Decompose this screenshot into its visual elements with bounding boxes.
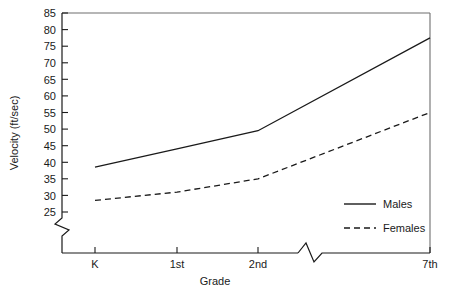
- x-tick-label-k: K: [91, 258, 99, 270]
- y-tick-label-70: 70: [44, 57, 56, 69]
- legend-label-females: Females: [383, 222, 426, 234]
- y-tick-label-65: 65: [44, 74, 56, 86]
- x-tick-label-1st: 1st: [170, 258, 185, 270]
- x-tick-label-2nd: 2nd: [249, 258, 267, 270]
- chart-svg: 85 80 75 70 65 60 55 50 45 40 35 30 25 V…: [0, 0, 452, 291]
- y-tick-label-30: 30: [44, 190, 56, 202]
- legend-label-males: Males: [383, 198, 413, 210]
- y-tick-label-60: 60: [44, 90, 56, 102]
- y-axis-title: Velocity (ft/sec): [8, 96, 20, 171]
- y-tick-label-80: 80: [44, 24, 56, 36]
- velocity-by-grade-line-chart: 85 80 75 70 65 60 55 50 45 40 35 30 25 V…: [0, 0, 452, 291]
- y-tick-label-45: 45: [44, 140, 56, 152]
- x-tick-label-7th: 7th: [422, 258, 437, 270]
- y-tick-label-85: 85: [44, 7, 56, 19]
- y-tick-label-55: 55: [44, 107, 56, 119]
- x-axis-title: Grade: [200, 275, 231, 287]
- y-tick-label-25: 25: [44, 206, 56, 218]
- y-tick-label-40: 40: [44, 157, 56, 169]
- y-tick-label-50: 50: [44, 123, 56, 135]
- y-tick-label-35: 35: [44, 173, 56, 185]
- y-tick-label-75: 75: [44, 40, 56, 52]
